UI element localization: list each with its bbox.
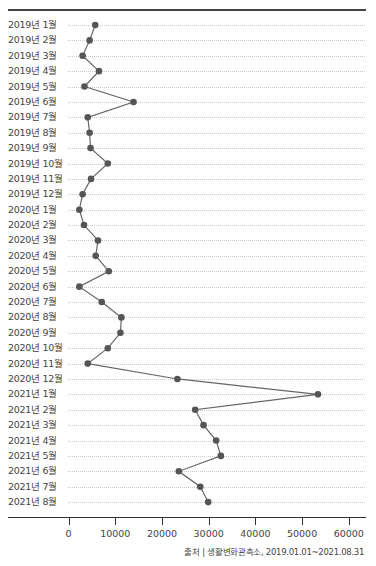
data-point <box>92 253 99 260</box>
data-point <box>98 299 105 306</box>
x-tick-label: 50000 <box>287 528 317 539</box>
x-tick-label: 20000 <box>147 528 177 539</box>
data-point <box>176 468 183 475</box>
data-point <box>95 237 102 244</box>
data-point <box>105 268 112 275</box>
data-point <box>81 222 88 229</box>
data-point <box>88 176 95 183</box>
data-point <box>76 283 83 290</box>
data-point <box>118 314 125 321</box>
x-tick-label: 60000 <box>334 528 364 539</box>
data-point <box>84 360 91 367</box>
data-point <box>218 453 225 460</box>
data-point <box>315 391 322 398</box>
data-point <box>84 114 91 121</box>
x-axis-line <box>8 517 366 518</box>
data-point <box>96 68 103 75</box>
data-point <box>81 83 88 90</box>
data-point <box>105 345 112 352</box>
x-tick <box>69 518 70 525</box>
x-tick <box>162 518 163 525</box>
data-point <box>130 99 137 106</box>
data-point <box>205 499 212 506</box>
data-point <box>213 437 220 444</box>
data-point <box>117 330 124 337</box>
x-tick <box>302 518 303 525</box>
data-point <box>200 422 207 429</box>
x-tick-label: 0 <box>66 528 72 539</box>
data-point <box>86 129 93 136</box>
x-tick-label: 40000 <box>240 528 270 539</box>
x-tick <box>349 518 350 525</box>
source-caption: 출처 | 생활변화관측소, 2019.01.01~2021.08.31 <box>184 545 364 557</box>
data-point <box>79 52 86 59</box>
line-plot <box>0 0 376 566</box>
data-point <box>197 483 204 490</box>
x-tick <box>115 518 116 525</box>
data-point <box>79 191 86 198</box>
series-line <box>79 25 318 502</box>
data-point <box>86 37 93 44</box>
x-tick <box>209 518 210 525</box>
data-point <box>192 406 199 413</box>
x-tick <box>255 518 256 525</box>
data-point <box>92 22 99 29</box>
data-point <box>87 145 94 152</box>
data-point <box>174 376 181 383</box>
x-tick-label: 10000 <box>100 528 130 539</box>
data-point <box>105 160 112 167</box>
data-point <box>76 206 83 213</box>
x-tick-label: 30000 <box>194 528 224 539</box>
